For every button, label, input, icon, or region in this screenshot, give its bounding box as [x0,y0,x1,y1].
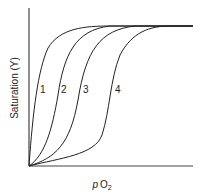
curve-label-3: 3 [83,84,89,95]
curve-3 [29,26,193,166]
curve-1 [29,26,193,166]
curve-label-2: 2 [61,84,67,95]
x-axis-label-p: p [91,179,98,190]
curve-2 [29,26,193,166]
y-axis-label: Saturation (Y) [9,57,20,119]
saturation-diagram: 1 2 3 4 Saturation (Y) pO2 [0,0,198,195]
x-axis-label: pO2 [91,179,111,191]
curve-label-4: 4 [115,84,121,95]
curve-label-1: 1 [40,84,46,95]
curve-4 [29,26,193,166]
x-axis-label-2: 2 [108,184,112,191]
